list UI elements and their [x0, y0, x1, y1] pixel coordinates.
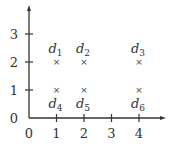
y-axis-arrow-icon	[27, 5, 31, 11]
cross-marker-icon: ×	[53, 57, 61, 67]
cross-marker-icon: ×	[53, 85, 61, 95]
data-points: ×d1×d2×d3×d4×d5×d6	[48, 41, 145, 113]
point-label: d2	[76, 41, 90, 58]
y-tick-label: 1	[10, 83, 18, 98]
point-label: d4	[48, 96, 62, 113]
cross-marker-icon: ×	[80, 57, 88, 67]
point-label: d3	[131, 41, 145, 58]
x-tick-label: 4	[135, 126, 143, 141]
cross-marker-icon: ×	[135, 57, 143, 67]
cross-marker-icon: ×	[135, 85, 143, 95]
x-tick-label: 3	[107, 126, 115, 141]
point-label: d5	[76, 96, 90, 113]
x-axis-arrow-icon	[160, 116, 166, 120]
x-tick-label: 2	[80, 126, 88, 141]
y-tick-label: 3	[10, 27, 18, 42]
scatter-plot: 01234 0123 ×d1×d2×d3×d4×d5×d6	[0, 0, 176, 148]
y-tick-label: 2	[10, 55, 18, 70]
y-tick-label: 0	[10, 111, 18, 126]
x-tick-label: 1	[52, 126, 60, 141]
point-label: d1	[48, 41, 62, 58]
x-tick-label: 0	[25, 126, 33, 141]
point-label: d6	[131, 96, 145, 113]
cross-marker-icon: ×	[80, 85, 88, 95]
